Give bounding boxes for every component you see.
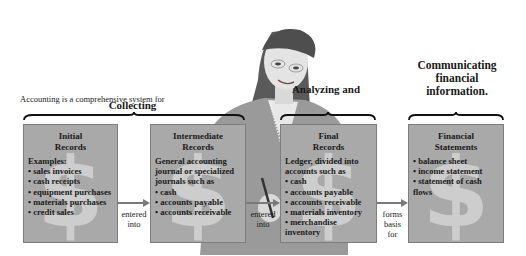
title-line: Final: [318, 131, 338, 141]
communicating-bracket: [408, 112, 504, 122]
arrow-2: [246, 200, 280, 206]
connector-label-3: forms basis for: [376, 209, 409, 239]
item-list: sales invoices cash receipts equipment p…: [28, 166, 113, 217]
phase-analyzing: Analyzing and: [276, 83, 376, 95]
list-item: sales invoices: [28, 166, 113, 176]
list-item: accounts receivable: [155, 207, 241, 217]
title-line: Records: [55, 142, 87, 152]
collecting-bracket: [23, 112, 245, 122]
phase-collecting: Collecting: [20, 99, 245, 111]
connector-text: into: [127, 219, 140, 229]
intermediate-records-box: $ Intermediate Records General accountin…: [150, 124, 246, 243]
connector-text: entered: [121, 209, 146, 219]
arrow-right-icon: [273, 199, 280, 207]
item-list: cash accounts payable accounts receivabl…: [285, 176, 372, 237]
title-line: Records: [313, 142, 345, 152]
list-item: income statement: [413, 166, 499, 176]
item-list: balance sheet income statement statement…: [413, 156, 499, 197]
list-item: merchandise inventory: [285, 217, 372, 237]
list-item: cash: [155, 187, 241, 197]
list-item: materials inventory: [285, 207, 372, 217]
list-item: credit sales: [28, 207, 113, 217]
list-item: accounts payable: [285, 187, 372, 197]
phase-communicating: Communicating financial information.: [412, 59, 502, 98]
item-list: cash accounts payable accounts receivabl…: [155, 187, 241, 218]
title-line: Initial: [59, 131, 83, 141]
list-item: cash: [285, 176, 372, 186]
final-records-box: $ Final Records Ledger, divided into acc…: [280, 124, 377, 243]
box-title: Initial Records: [28, 131, 113, 153]
box-intro: General accounting journal or specialize…: [155, 156, 241, 187]
connector-label-2: entered into: [245, 209, 281, 229]
box-intro: Ledger, divided into accounts such as: [285, 156, 372, 176]
arrow-right-icon: [143, 199, 150, 207]
list-item: equipment purchases: [28, 187, 113, 197]
box-intro: Examples:: [28, 156, 113, 166]
list-item: balance sheet: [413, 156, 499, 166]
analyzing-bracket: [280, 112, 376, 122]
title-line: Financial: [438, 131, 474, 141]
list-item: accounts receivable: [285, 197, 372, 207]
title-line: Statements: [435, 142, 478, 152]
connector-text: into: [256, 219, 269, 229]
list-item: statement of cash flows: [413, 176, 499, 196]
connector-text: basis: [384, 219, 401, 229]
connector-text: for: [388, 229, 398, 239]
arrow-right-icon: [401, 199, 408, 207]
list-item: cash receipts: [28, 176, 113, 186]
connector-text: entered: [250, 209, 275, 219]
initial-records-box: $ Initial Records Examples: sales invoic…: [23, 124, 118, 243]
box-title: Intermediate Records: [155, 131, 241, 153]
connector-text: forms: [383, 209, 403, 219]
arrow-1: [118, 200, 150, 206]
box-title: Final Records: [285, 131, 372, 153]
list-item: materials purchases: [28, 197, 113, 207]
title-line: Intermediate: [173, 131, 223, 141]
box-title: Financial Statements: [413, 131, 499, 153]
arrow-3: [377, 200, 408, 206]
connector-label-1: entered into: [117, 209, 151, 229]
financial-statements-box: $ Financial Statements balance sheet inc…: [408, 124, 504, 243]
title-line: Records: [182, 142, 214, 152]
list-item: accounts payable: [155, 197, 241, 207]
